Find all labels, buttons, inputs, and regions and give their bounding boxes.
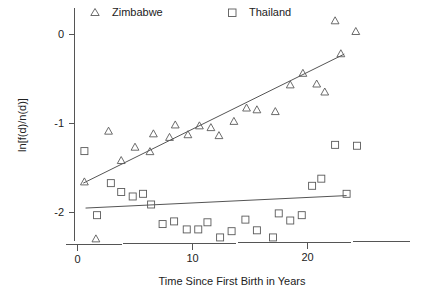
data-point-triangle xyxy=(321,88,329,95)
data-point-triangle xyxy=(253,106,261,113)
data-point-triangle xyxy=(131,143,139,150)
data-point-square xyxy=(183,226,190,233)
data-point-triangle xyxy=(352,27,360,34)
data-point-triangle xyxy=(215,132,223,139)
data-point-square xyxy=(353,142,360,149)
data-point-square xyxy=(217,234,224,241)
y-tick-label-minus2: -2 xyxy=(54,206,64,218)
y-axis-ticks: 0 -1 -2 xyxy=(54,28,74,218)
data-point-triangle xyxy=(207,124,215,131)
chart-legend: Zimbabwe Thailand xyxy=(91,6,291,18)
legend-entry-thailand: Thailand xyxy=(229,6,292,18)
data-point-square xyxy=(242,216,249,223)
data-point-triangle xyxy=(230,117,238,124)
x-tick-label-10: 10 xyxy=(186,252,198,264)
data-point-square xyxy=(195,226,202,233)
data-point-square xyxy=(253,227,260,234)
data-point-square xyxy=(118,189,125,196)
data-point-square xyxy=(332,141,339,148)
x-tick-label-20: 20 xyxy=(301,251,313,263)
data-point-triangle xyxy=(92,235,100,242)
axis-lines xyxy=(66,8,410,245)
data-point-triangle xyxy=(243,104,251,111)
data-point-square xyxy=(287,217,294,224)
data-point-square xyxy=(159,221,166,228)
data-point-triangle xyxy=(105,127,113,134)
data-point-square xyxy=(81,148,88,155)
series-thailand-points xyxy=(81,141,361,241)
data-point-square xyxy=(204,219,211,226)
data-point-square xyxy=(129,193,136,200)
data-point-square xyxy=(94,212,101,219)
y-axis-title: ln[f(d)/n(d)] xyxy=(16,98,28,152)
data-point-square xyxy=(140,190,147,197)
x-axis-title: Time Since First Birth in Years xyxy=(159,275,306,287)
data-point-square xyxy=(275,210,282,217)
legend-marker-triangle-icon xyxy=(91,9,99,16)
data-point-square xyxy=(343,190,350,197)
data-point-square xyxy=(171,218,178,225)
data-point-triangle xyxy=(313,80,321,87)
x-axis-ticks: 0 10 20 xyxy=(74,243,313,266)
data-point-square xyxy=(107,180,114,187)
data-point-triangle xyxy=(331,17,339,24)
legend-label-zimbabwe: Zimbabwe xyxy=(112,6,163,18)
data-point-square xyxy=(309,182,316,189)
chart-figure: Zimbabwe Thailand 0 -1 -2 0 xyxy=(0,0,424,290)
data-point-square xyxy=(298,212,305,219)
data-point-triangle xyxy=(150,130,158,137)
y-tick-label-minus1: -1 xyxy=(54,117,64,129)
series-zimbabwe-points xyxy=(81,17,360,242)
scatter-plot: Zimbabwe Thailand 0 -1 -2 0 xyxy=(0,0,424,290)
data-point-square xyxy=(228,228,235,235)
legend-entry-zimbabwe: Zimbabwe xyxy=(91,6,163,18)
data-point-triangle xyxy=(271,108,279,115)
data-point-square xyxy=(270,234,277,241)
x-tick-label-0: 0 xyxy=(74,253,80,265)
regression-line xyxy=(86,196,347,208)
legend-marker-square-icon xyxy=(229,9,237,17)
fit-lines-layer xyxy=(83,54,346,208)
y-tick-label-0: 0 xyxy=(58,28,64,40)
data-point-square xyxy=(318,175,325,182)
x-axis-line xyxy=(66,242,410,245)
data-point-triangle xyxy=(171,121,179,128)
legend-label-thailand: Thailand xyxy=(249,6,291,18)
